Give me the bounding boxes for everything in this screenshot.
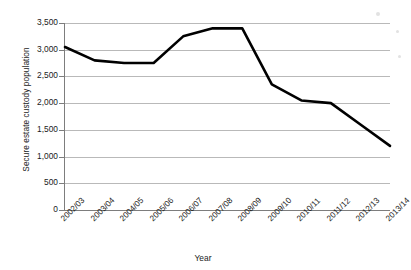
series-line-secure-estate-custody-population: [65, 28, 390, 146]
scan-speck-3: [398, 55, 401, 58]
scan-speck-2: [396, 30, 399, 33]
scan-speck-1: [376, 12, 380, 16]
x-axis-title: Year: [0, 253, 406, 263]
